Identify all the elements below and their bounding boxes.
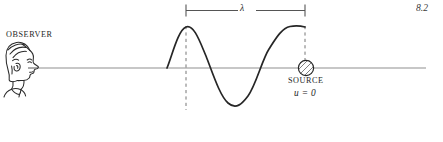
- wavelength-dimension-line: [186, 4, 305, 17]
- figure-canvas: [0, 0, 443, 142]
- sinusoidal-wave: [167, 26, 305, 106]
- figure-number-label: 8.2: [416, 3, 443, 13]
- observer-head: [4, 42, 38, 97]
- figure-doppler-source-at-rest: OBSERVER SOURCE u = 0 λ 8.2: [0, 0, 443, 142]
- source-velocity-label: u = 0: [294, 89, 316, 98]
- wavelength-label: λ: [240, 3, 244, 13]
- source-label: SOURCE: [288, 77, 324, 85]
- observer-label: OBSERVER: [6, 31, 53, 39]
